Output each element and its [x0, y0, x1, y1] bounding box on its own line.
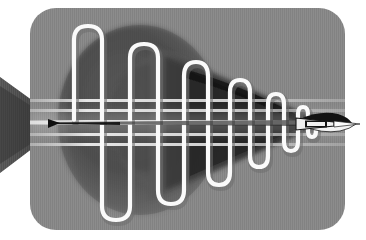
figure-canvas: [0, 0, 366, 240]
arrow-slot-inner: [307, 122, 325, 126]
visualization-svg: [0, 0, 366, 240]
